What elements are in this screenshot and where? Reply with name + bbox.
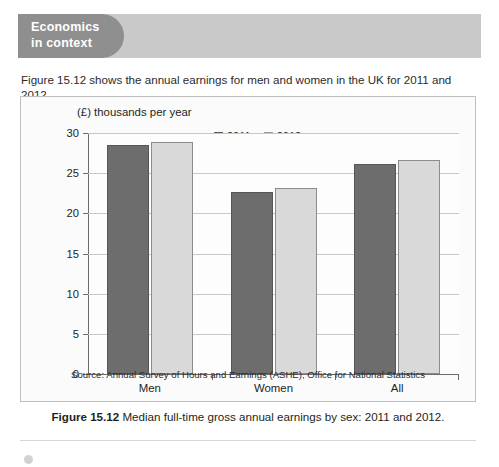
y-tick-label: 10 xyxy=(67,288,79,300)
figure-caption: Figure 15.12 Median full-time gross annu… xyxy=(20,410,476,423)
y-tick-label: 5 xyxy=(73,328,79,340)
banner-title-line1: Economics xyxy=(31,20,127,36)
plot-area: 051015202530MenWomenAll xyxy=(88,133,459,375)
y-tick-mark xyxy=(83,133,88,134)
y-tick-mark xyxy=(83,334,88,335)
chart-panel: (£) thousands per year 2011 2012 0510152… xyxy=(20,96,476,402)
x-category-label-men: Men xyxy=(139,382,161,394)
banner-title-line2: in context xyxy=(31,36,127,52)
bar-men-2012 xyxy=(151,142,193,374)
y-axis-title: (£) thousands per year xyxy=(77,106,192,118)
x-category-label-women: Women xyxy=(254,382,293,394)
bar-all-2012 xyxy=(398,160,440,374)
gridline xyxy=(88,133,459,134)
bar-all-2011 xyxy=(354,164,396,374)
bar-women-2011 xyxy=(231,192,273,374)
y-tick-label: 25 xyxy=(67,167,79,179)
bar-women-2012 xyxy=(275,188,317,374)
y-tick-mark xyxy=(83,213,88,214)
y-tick-mark xyxy=(83,294,88,295)
y-tick-mark xyxy=(83,254,88,255)
figure-caption-number: Figure 15.12 xyxy=(52,410,120,423)
x-category-label-all: All xyxy=(391,382,404,394)
chart-source-note: Source: Annual Survey of Hours and Earni… xyxy=(21,369,475,380)
y-tick-label: 20 xyxy=(67,207,79,219)
figure-caption-text: Median full-time gross annual earnings b… xyxy=(122,410,444,423)
y-tick-label: 30 xyxy=(67,127,79,139)
banner-title: Economics in context xyxy=(31,20,127,51)
bottom-divider xyxy=(20,440,476,441)
y-tick-mark xyxy=(83,173,88,174)
economics-in-context-banner: Economics in context xyxy=(18,14,481,58)
bottom-bullet-icon xyxy=(24,455,33,464)
bar-men-2011 xyxy=(107,145,149,374)
y-tick-label: 15 xyxy=(67,248,79,260)
